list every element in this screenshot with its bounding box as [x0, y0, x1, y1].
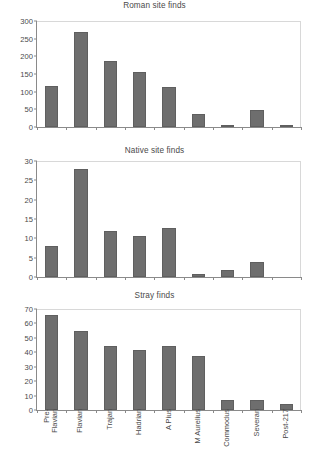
y-tick-label: 20 [25, 377, 33, 386]
bar [192, 356, 205, 410]
x-tick-mark [154, 127, 155, 130]
x-tick-mark [242, 127, 243, 130]
bar-group [37, 309, 301, 410]
bar [104, 61, 117, 127]
y-tick-label: 60 [25, 319, 33, 328]
y-tick-label: 40 [25, 348, 33, 357]
x-tick-mark [37, 127, 38, 130]
bar [133, 350, 146, 410]
y-tick-label: 15 [25, 215, 33, 224]
x-axis-label: Post-217 [282, 409, 290, 439]
x-tick-mark [213, 127, 214, 130]
y-tick-label: 200 [20, 52, 33, 61]
x-axis-label: Commodus [223, 409, 231, 447]
bar [45, 315, 58, 410]
x-tick-mark [242, 277, 243, 280]
bar [250, 110, 263, 127]
bar [250, 262, 263, 277]
y-tick-label: 0 [29, 273, 33, 282]
chart-panel-native-site-finds: Native site finds 051015202530 [0, 145, 309, 295]
y-tick-label: 50 [25, 105, 33, 114]
x-axis-label: Severan [253, 409, 261, 437]
y-tick-label: 10 [25, 391, 33, 400]
bar [162, 346, 175, 410]
panel-title: Stray finds [0, 290, 309, 301]
panel-title: Native site finds [0, 145, 309, 156]
bar [221, 125, 234, 127]
x-axis-label: Hadrian [135, 409, 143, 435]
x-tick-mark [154, 277, 155, 280]
x-tick-mark [213, 277, 214, 280]
x-tick-mark [301, 410, 302, 413]
bar-group [37, 21, 301, 127]
x-tick-mark [184, 277, 185, 280]
y-tick-label: 100 [20, 87, 33, 96]
bar [162, 228, 175, 277]
x-tick-mark [96, 127, 97, 130]
y-tick-label: 30 [25, 157, 33, 166]
plot-area: 010203040506070 [36, 309, 301, 411]
y-tick-label: 10 [25, 234, 33, 243]
figure-canvas: Roman site finds 050100150200250300 Nati… [0, 0, 309, 464]
x-axis-label: Trajan [105, 409, 113, 430]
bar [45, 246, 58, 277]
y-tick-label: 0 [29, 406, 33, 415]
bar [104, 346, 117, 410]
y-tick-label: 0 [29, 123, 33, 132]
x-tick-mark [272, 127, 273, 130]
bar [133, 72, 146, 127]
bar [221, 270, 234, 277]
bar [192, 114, 205, 127]
y-tick-label: 5 [29, 253, 33, 262]
bar [280, 125, 293, 127]
x-axis-label: Flavian [76, 409, 84, 433]
y-tick-label: 30 [25, 362, 33, 371]
x-tick-mark [301, 277, 302, 280]
bar [74, 331, 87, 410]
x-tick-mark [66, 127, 67, 130]
y-tick-label: 50 [25, 333, 33, 342]
x-axis-label: M Aurelius [194, 409, 202, 444]
bar [74, 32, 87, 127]
y-tick-label: 25 [25, 176, 33, 185]
chart-panel-stray-finds: Stray finds 010203040506070 Pre- Flavian… [0, 290, 309, 464]
y-tick-label: 70 [25, 305, 33, 314]
bar [74, 169, 87, 277]
x-tick-mark [66, 277, 67, 280]
x-tick-mark [96, 277, 97, 280]
x-axis-label: Pre- Flavian [42, 409, 59, 433]
bar [162, 87, 175, 127]
x-axis-labels: Pre- FlavianFlavianTrajanHadrianA PiusM … [36, 409, 301, 464]
chart-panel-roman-site-finds: Roman site finds 050100150200250300 [0, 0, 309, 150]
y-tick-label: 300 [20, 17, 33, 26]
x-tick-mark [272, 277, 273, 280]
plot-area: 051015202530 [36, 161, 301, 278]
x-tick-mark [184, 127, 185, 130]
bar [192, 274, 205, 277]
bar [104, 231, 117, 277]
panel-title: Roman site finds [0, 0, 309, 11]
bar-group [37, 161, 301, 277]
bar [45, 86, 58, 127]
x-tick-mark [37, 277, 38, 280]
x-tick-mark [301, 127, 302, 130]
x-axis-label: A Pius [164, 409, 172, 430]
y-tick-label: 250 [20, 34, 33, 43]
bar [133, 236, 146, 277]
plot-area: 050100150200250300 [36, 21, 301, 128]
x-tick-mark [125, 277, 126, 280]
y-tick-label: 20 [25, 195, 33, 204]
y-tick-label: 150 [20, 70, 33, 79]
x-tick-mark [125, 127, 126, 130]
